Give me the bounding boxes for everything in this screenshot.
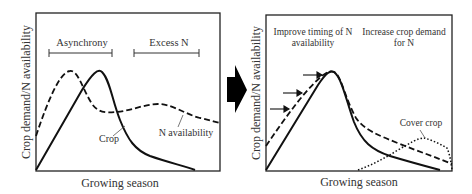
asynchrony-bracket (49, 49, 112, 57)
improve-timing-label-line1: Improve timing of N (274, 27, 353, 37)
left-panel: Asynchrony Excess N Crop N availability … (19, 13, 220, 190)
cover-crop-leader-line (420, 130, 425, 138)
increase-demand-label-line1: Increase crop demand (362, 27, 446, 37)
left-x-axis-label: Growing season (81, 176, 159, 190)
improve-timing-label-line2: availability (292, 38, 335, 48)
n-availability-curve-label: N availability (159, 127, 214, 138)
cover-crop-curve (358, 138, 452, 170)
arrow-icon-1 (270, 106, 289, 112)
increase-demand-label-line2: for N (394, 38, 414, 48)
cover-crop-label: Cover crop (400, 118, 443, 128)
arrow-icon-2 (283, 90, 302, 96)
diagram-canvas: Asynchrony Excess N Crop N availability … (0, 0, 472, 194)
crop-curve-label: Crop (99, 133, 119, 144)
right-arrow-icon (227, 65, 247, 113)
right-x-axis-label: Growing season (320, 175, 398, 189)
crop-curve (36, 71, 195, 170)
excess-n-label: Excess N (149, 37, 189, 48)
n-availability-leader-line (178, 115, 183, 127)
arrow-icon-3 (303, 72, 322, 78)
excess-n-bracket (134, 49, 199, 57)
right-y-axis-label: Crop demand/N availability (249, 26, 263, 160)
asynchrony-label: Asynchrony (56, 37, 108, 48)
right-panel: Improve timing of N availability Increas… (249, 15, 452, 189)
left-y-axis-label: Crop demand/N availability (19, 25, 33, 159)
